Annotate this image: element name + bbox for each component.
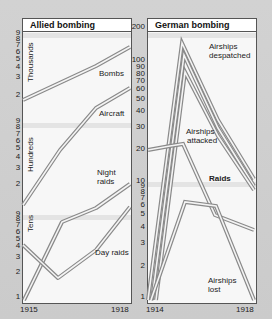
tick: 2	[141, 261, 146, 270]
x-label-1918-right: 1918	[236, 305, 254, 314]
tick: 1	[141, 292, 146, 301]
chart-svg: 9 8 7 6 5 4 3 2 9 8 7 6 5 4 3 2 9 8 7 6 …	[0, 0, 272, 319]
center-y-axis: 200 100 90 80 70 60 50 40 30 20 10 9 8 7…	[132, 22, 146, 301]
tick: 5	[16, 143, 21, 152]
series-aircraft-line	[23, 88, 130, 205]
tick: 2	[16, 179, 21, 188]
tick: 30	[136, 122, 145, 131]
label-attacked-1: Airships	[186, 127, 214, 136]
x-label-1918-left: 1918	[111, 305, 129, 314]
tick: 20	[136, 144, 145, 153]
unit-tens: Tens	[26, 215, 35, 232]
left-y-axis: 9 8 7 6 5 4 3 2 9 8 7 6 5 4 3 2 9 8 7 6 …	[16, 28, 21, 301]
tick: 4	[16, 152, 21, 161]
tick: 6	[141, 200, 146, 209]
tick: 4	[16, 62, 21, 71]
tick: 2	[16, 267, 21, 276]
tick: 1	[16, 292, 21, 301]
label-bombs: Bombs	[99, 69, 124, 78]
label-despatched-2: despatched	[209, 51, 250, 60]
label-despatched-1: Airships	[209, 42, 237, 51]
label-night-2: raids	[97, 177, 114, 186]
tick: 50	[136, 94, 145, 103]
tick: 3	[141, 238, 146, 247]
unit-thousands: Thousands	[26, 42, 35, 82]
label-lost-2: lost	[208, 285, 221, 294]
tick: 4	[141, 222, 146, 231]
unit-hundreds: Hundreds	[26, 137, 35, 172]
label-night-1: Night	[97, 168, 116, 177]
label-attacked-2: attacked	[187, 136, 217, 145]
tick: 4	[16, 241, 21, 250]
label-day-raids: Day raids	[95, 248, 129, 257]
tick: 3	[16, 72, 21, 81]
tick: 5	[141, 209, 146, 218]
tick: 2	[16, 90, 21, 99]
tick: 40	[136, 106, 145, 115]
series-night-raids-line	[24, 184, 130, 300]
tick: 3	[16, 252, 21, 261]
label-lost-1: Airships	[208, 276, 236, 285]
x-label-1915: 1915	[20, 305, 38, 314]
tick: 60	[136, 84, 145, 93]
tick: 200	[132, 22, 146, 31]
label-aircraft: Aircraft	[99, 109, 125, 118]
tick: 3	[16, 163, 21, 172]
label-raids: Raids	[209, 174, 231, 183]
x-label-1914: 1914	[146, 305, 164, 314]
german-lines	[148, 43, 254, 300]
